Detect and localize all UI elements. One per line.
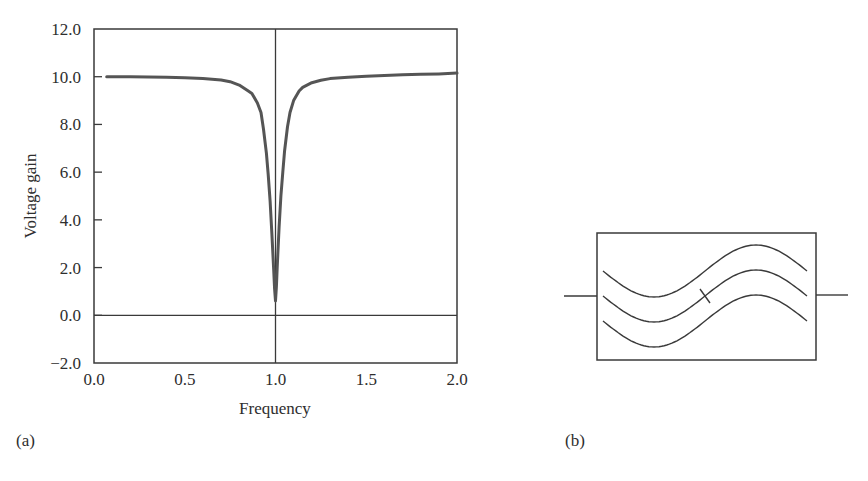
x-axis-ticks: 0.00.51.01.52.0 xyxy=(83,370,467,389)
x-tick-label: 2.0 xyxy=(446,370,467,389)
y-tick-label: 0.0 xyxy=(60,306,81,325)
chart-panel: 12.010.08.06.04.02.00.0−2.0 0.00.51.01.5… xyxy=(16,20,468,450)
y-axis-title: Voltage gain xyxy=(21,153,40,239)
y-tick-label: 6.0 xyxy=(60,163,81,182)
wave-bottom xyxy=(603,295,807,347)
y-tick-label: −2.0 xyxy=(50,354,81,373)
series-line-voltage-gain xyxy=(107,73,457,301)
y-tick-label: 12.0 xyxy=(51,20,81,39)
panel-label-b: (b) xyxy=(565,431,585,450)
notch-filter-symbol: (b) xyxy=(564,233,848,450)
figure: 12.010.08.06.04.02.00.0−2.0 0.00.51.01.5… xyxy=(0,0,868,481)
y-tick-label: 4.0 xyxy=(60,211,81,230)
x-tick-label: 0.5 xyxy=(174,370,195,389)
x-axis-title: Frequency xyxy=(239,399,311,418)
y-tick-label: 2.0 xyxy=(60,259,81,278)
wave-slash xyxy=(700,289,710,303)
panel-label-a: (a) xyxy=(16,431,35,450)
y-tick-label: 8.0 xyxy=(60,115,81,134)
x-tick-label: 1.0 xyxy=(265,370,286,389)
x-tick-label: 0.0 xyxy=(83,370,104,389)
wave-top xyxy=(603,245,807,297)
y-tick-label: 10.0 xyxy=(51,68,81,87)
x-tick-label: 1.5 xyxy=(356,370,377,389)
